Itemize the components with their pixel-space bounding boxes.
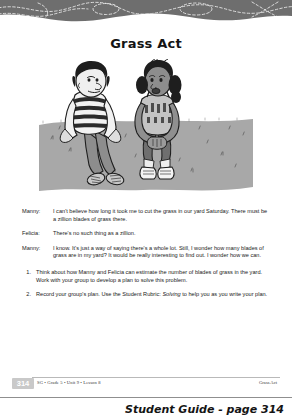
task-text: Record your group's plan. Use the Studen… bbox=[36, 291, 270, 299]
task-list: 1. Think about how Manny and Felicia can… bbox=[22, 269, 270, 299]
illustration-graphic bbox=[39, 59, 253, 199]
task-number: 2. bbox=[22, 291, 36, 299]
caption-strip: Student Guide - page 314 bbox=[0, 397, 292, 420]
task-text-italic: Solving bbox=[162, 291, 180, 297]
dialogue-text: I know. It's just a way of saying there'… bbox=[53, 245, 270, 260]
dialogue-line: Manny: I can't believe how long it took … bbox=[22, 208, 270, 223]
textbook-page: Grass Act bbox=[0, 0, 292, 420]
dialogue-line: Manny: I know. It's just a way of saying… bbox=[22, 245, 270, 260]
dialogue-text: There's no such thing as a zillion. bbox=[53, 230, 270, 238]
title-container: Grass Act bbox=[0, 26, 292, 52]
dialogue-speaker: Felicia: bbox=[22, 230, 53, 238]
page-footer: 314 SG • Grade 5 • Unit 9 • Lesson 8 Gra… bbox=[12, 377, 280, 393]
dialogue-text: I can't believe how long it took me to c… bbox=[53, 208, 270, 223]
lesson-illustration bbox=[39, 59, 253, 199]
footer-divider bbox=[32, 377, 280, 378]
dialogue-speaker: Manny: bbox=[22, 245, 53, 253]
page-number-badge: 314 bbox=[12, 378, 34, 389]
header-band-graphic bbox=[0, 0, 292, 26]
task-text-before: Think about how Manny and Felicia can es… bbox=[36, 269, 262, 283]
caption-label: Student Guide - page 314 bbox=[125, 403, 284, 416]
decorative-header-band bbox=[0, 0, 292, 26]
task-item: 2. Record your group's plan. Use the Stu… bbox=[22, 291, 270, 299]
footer-lesson-title: Grass Act bbox=[259, 380, 277, 385]
dialogue-block: Manny: I can't believe how long it took … bbox=[22, 208, 270, 260]
task-number: 1. bbox=[22, 269, 36, 277]
dialogue-speaker: Manny: bbox=[22, 208, 53, 216]
task-item: 1. Think about how Manny and Felicia can… bbox=[22, 269, 270, 284]
task-text-after: to help you as you write your plan. bbox=[181, 291, 267, 297]
page-title: Grass Act bbox=[110, 36, 182, 51]
footer-source-line: SG • Grade 5 • Unit 9 • Lesson 8 bbox=[37, 380, 101, 385]
dialogue-line: Felicia: There's no such thing as a zill… bbox=[22, 230, 270, 238]
task-text-before: Record your group's plan. Use the Studen… bbox=[36, 291, 162, 297]
task-text: Think about how Manny and Felicia can es… bbox=[36, 269, 270, 284]
lesson-content: Manny: I can't believe how long it took … bbox=[0, 199, 292, 299]
